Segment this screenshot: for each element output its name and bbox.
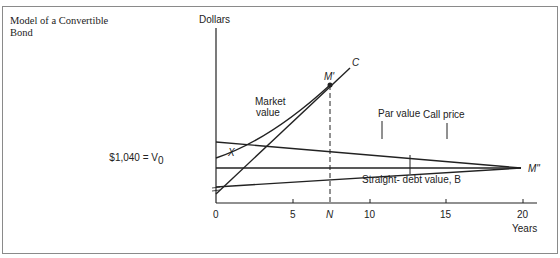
y-label-1040: $1,040 = V bbox=[109, 152, 158, 163]
x-tick-15: 15 bbox=[440, 209, 452, 220]
x-point-label: X bbox=[227, 147, 235, 158]
y-label-1040-sub: 0 bbox=[158, 155, 164, 166]
x-tick-20: 20 bbox=[517, 209, 529, 220]
y-axis-label: Dollars bbox=[199, 14, 230, 25]
m-prime-label: M' bbox=[324, 71, 335, 82]
ct-label: C bbox=[352, 57, 360, 68]
x-tick-10: 10 bbox=[364, 209, 376, 220]
straight-debt-label: Straight- debt value, B bbox=[362, 174, 461, 185]
x-axis-label: Years bbox=[512, 223, 537, 234]
x-tick-0: 0 bbox=[213, 209, 219, 220]
x-tick-n: N bbox=[326, 209, 334, 220]
call-price-line bbox=[216, 142, 521, 168]
convertible-bond-chart: Dollars 0 5 N 10 15 20 Years $1,040 = V … bbox=[0, 0, 560, 258]
market-value-label-2: value bbox=[256, 107, 280, 118]
m-prime-point bbox=[328, 83, 333, 88]
market-value-label-1: Market bbox=[255, 96, 286, 107]
m-double-prime-label: M" bbox=[528, 163, 540, 174]
x-tick-5: 5 bbox=[290, 209, 296, 220]
call-price-label: Call price bbox=[423, 109, 465, 120]
par-value-label: Par value bbox=[378, 108, 421, 119]
